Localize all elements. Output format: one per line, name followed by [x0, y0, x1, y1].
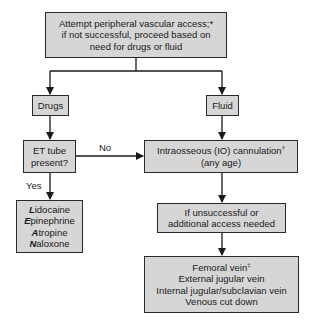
io-box: Intraosseous (IO) cannulation† (any age) [144, 140, 298, 173]
unsuccessful-line-2: additional access needed [168, 218, 275, 230]
drug-rest: pinephrine [30, 215, 74, 226]
drug-rest: idocaine [35, 204, 70, 215]
fluid-box: Fluid [206, 95, 239, 116]
unsuccessful-box: If unsuccessful or additional access nee… [157, 203, 286, 233]
site-item: External jugular vein [178, 273, 264, 285]
io-line-2: (any age) [201, 157, 241, 169]
drug-item: Atropine [32, 227, 68, 239]
drugs-box: Drugs [32, 95, 69, 116]
double-dagger-footnote: ‡ [247, 261, 250, 267]
drug-rest: tropine [38, 227, 67, 238]
drug-rest: aloxone [36, 238, 69, 249]
site-item: Internal jugular/subclavian vein [156, 285, 286, 297]
io-text: Intraosseous (IO) cannulation [157, 145, 282, 156]
fluid-label: Fluid [212, 100, 233, 112]
et-tube-box: ET tube present? [23, 140, 76, 173]
drugs-list-box: Lidocaine Epinephrine Atropine Naloxone [16, 200, 83, 253]
drug-item: Lidocaine [29, 204, 70, 216]
start-box: Attempt peripheral vascular access;* if … [45, 12, 227, 58]
no-edge-label: No [99, 142, 111, 153]
start-line-1: Attempt peripheral vascular access;* [59, 18, 213, 30]
start-line-2: if not successful, proceed based on [62, 29, 211, 41]
io-line-1: Intraosseous (IO) cannulation† [157, 145, 285, 157]
access-sites-box: Femoral vein‡ External jugular vein Inte… [144, 256, 299, 313]
start-line-3: need for drugs or fluid [90, 41, 182, 53]
yes-edge-label: Yes [26, 180, 42, 191]
drug-item: Naloxone [29, 238, 69, 250]
unsuccessful-line-1: If unsuccessful or [185, 207, 259, 219]
site-femoral-text: Femoral vein [192, 262, 247, 273]
drugs-label: Drugs [38, 100, 63, 112]
dagger-footnote: † [282, 145, 285, 151]
et-tube-line-2: present? [31, 157, 68, 169]
drug-item: Epinephrine [24, 215, 75, 227]
et-tube-line-1: ET tube [33, 145, 66, 157]
site-femoral: Femoral vein‡ [192, 262, 250, 274]
site-item: Venous cut down [185, 296, 257, 308]
